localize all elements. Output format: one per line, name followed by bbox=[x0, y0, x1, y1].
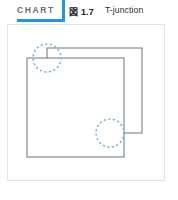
t-junction-diagram bbox=[0, 0, 178, 200]
front-rectangle bbox=[27, 58, 124, 157]
figure-panel: CHART 図 1.7 T-junction bbox=[0, 0, 178, 200]
